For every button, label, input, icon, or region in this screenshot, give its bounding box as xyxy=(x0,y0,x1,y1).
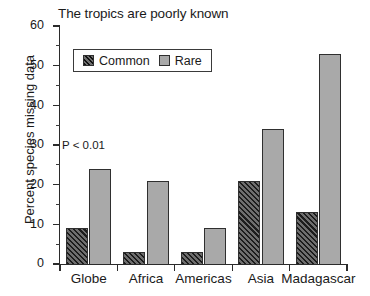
y-tick-40: 40 xyxy=(53,105,60,106)
x-label-madagascar: Madagascar xyxy=(281,271,355,286)
bar-africa-common xyxy=(123,252,145,264)
bar-chart: The tropics are poorly known Percent spe… xyxy=(0,0,370,296)
bar-asia-rare xyxy=(262,129,284,264)
legend-label-rare: Rare xyxy=(175,54,202,68)
x-tick-0 xyxy=(59,264,60,271)
y-minor-tick-45 xyxy=(56,85,60,86)
y-tick-label-0: 0 xyxy=(37,256,44,270)
x-tick-4 xyxy=(289,264,290,271)
bar-americas-common xyxy=(181,252,203,264)
legend-item-common: Common xyxy=(83,54,150,68)
bar-americas-rare xyxy=(204,228,226,264)
x-label-africa: Africa xyxy=(129,271,164,286)
y-tick-10: 10 xyxy=(53,224,60,225)
y-tick-label-10: 10 xyxy=(30,217,44,231)
y-tick-label-50: 50 xyxy=(30,58,44,72)
bar-globe-rare xyxy=(89,169,111,264)
y-tick-label-20: 20 xyxy=(30,177,44,191)
y-minor-tick-35 xyxy=(56,125,60,126)
legend-label-common: Common xyxy=(99,54,150,68)
y-minor-tick-15 xyxy=(56,204,60,205)
y-tick-60: 60 xyxy=(53,25,60,26)
legend-item-rare: Rare xyxy=(159,54,202,68)
y-tick-label-60: 60 xyxy=(30,18,44,32)
y-minor-tick-55 xyxy=(56,45,60,46)
common-hatch-swatch xyxy=(83,55,94,66)
y-tick-label-30: 30 xyxy=(30,137,44,151)
chart-title: The tropics are poorly known xyxy=(58,6,229,21)
x-tick-5 xyxy=(346,264,347,271)
x-label-asia: Asia xyxy=(248,271,274,286)
y-minor-tick-5 xyxy=(56,244,60,245)
x-label-americas: Americas xyxy=(175,271,231,286)
bar-africa-rare xyxy=(147,181,169,264)
chart-legend: Common Rare xyxy=(73,49,212,72)
bar-madagascar-rare xyxy=(319,54,341,264)
y-tick-label-40: 40 xyxy=(30,98,44,112)
rare-gray-swatch xyxy=(159,55,170,66)
x-tick-3 xyxy=(232,264,233,271)
significance-annotation: P < 0.01 xyxy=(62,139,105,151)
y-minor-tick-25 xyxy=(56,164,60,165)
bar-asia-common xyxy=(238,181,260,264)
x-tick-1 xyxy=(117,264,118,271)
bar-globe-common xyxy=(66,228,88,264)
bar-madagascar-common xyxy=(296,212,318,264)
y-tick-30: 30 xyxy=(53,144,60,145)
y-tick-20: 20 xyxy=(53,184,60,185)
y-tick-50: 50 xyxy=(53,65,60,66)
x-label-globe: Globe xyxy=(71,271,107,286)
x-tick-2 xyxy=(174,264,175,271)
